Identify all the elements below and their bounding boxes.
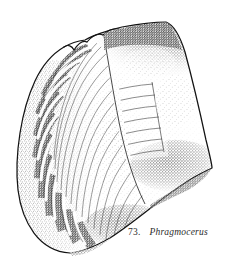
figure-number: 73.	[128, 227, 140, 237]
genus-name: Phragmocerus	[149, 227, 207, 237]
figure-page: 73.Phragmocerus	[0, 0, 234, 276]
figure-caption: 73.Phragmocerus	[128, 227, 208, 237]
